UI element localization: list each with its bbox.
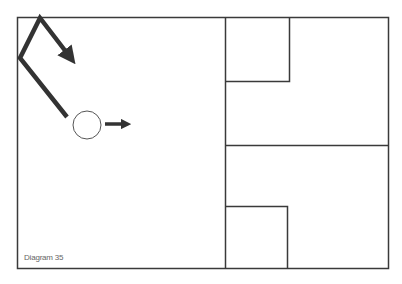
bounce-path-arrow	[20, 18, 70, 117]
diagram-caption: Diagram 35	[24, 253, 63, 262]
ball	[73, 111, 101, 139]
table-frame	[18, 17, 390, 269]
outer-frame	[18, 18, 389, 269]
diagram-canvas	[0, 0, 402, 284]
upper-box	[225, 17, 290, 82]
lower-box	[225, 207, 288, 270]
